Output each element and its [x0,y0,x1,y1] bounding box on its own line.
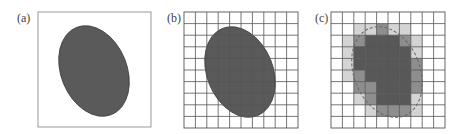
pixel-cell [399,24,411,36]
pixel-cell [377,82,389,94]
pixel-cell [377,58,389,70]
pixel-cell [411,70,423,82]
pixel-cell [411,105,423,117]
pixel-cell [365,35,377,47]
pixel-cell [399,93,411,105]
pixel-cell [411,47,423,59]
pixel-cell [411,58,423,70]
pixel-cell [342,47,354,59]
pixel-cell [377,105,389,117]
pixel-cell [365,70,377,82]
pixel-cell [342,35,354,47]
pixel-cell [377,93,389,105]
pixel-cell [354,93,366,105]
pixel-cell [399,47,411,59]
pixel-cell [411,35,423,47]
pixel-cell [365,58,377,70]
pixel-cell [388,82,400,94]
pixel-cell [365,47,377,59]
pixel-cell [388,105,400,117]
pixel-cell [399,58,411,70]
pixel-cell [388,47,400,59]
pixel-cell [354,24,366,36]
pixel-cell [354,58,366,70]
pixel-cell [365,93,377,105]
pixel-cell [354,70,366,82]
pixel-cell [388,58,400,70]
pixel-cell [377,35,389,47]
pixel-cell [365,82,377,94]
pixel-cell [399,82,411,94]
pixel-cell [377,47,389,59]
pixel-cell [399,70,411,82]
pixel-cell [354,35,366,47]
pixel-cell [354,47,366,59]
pixel-cell [388,35,400,47]
pixel-cell [411,82,423,94]
pixel-cell [377,24,389,36]
pixel-cell [377,70,389,82]
pixel-cell [342,70,354,82]
pixel-cell [388,93,400,105]
pixel-cell [365,105,377,117]
panel-c-graphic [0,0,462,134]
pixel-cell [388,70,400,82]
